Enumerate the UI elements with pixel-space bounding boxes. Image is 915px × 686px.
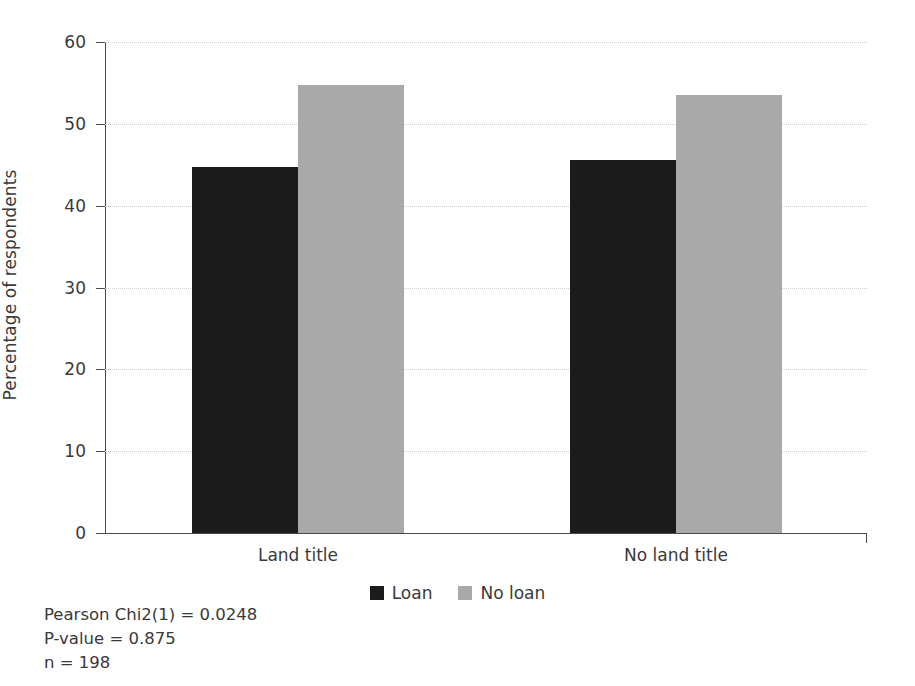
y-axis-tick bbox=[96, 42, 105, 43]
y-axis-tick bbox=[96, 288, 105, 289]
legend: LoanNo loan bbox=[0, 583, 915, 603]
y-axis-tick-label: 60 bbox=[20, 32, 86, 52]
bar-loan-land-title bbox=[192, 167, 298, 533]
x-axis-category-label: Land title bbox=[258, 545, 338, 565]
statistics-annotations: Pearson Chi2(1) = 0.0248P-value = 0.875n… bbox=[44, 603, 257, 675]
legend-swatch-icon bbox=[458, 586, 472, 600]
y-axis-tick bbox=[96, 451, 105, 452]
plot-area bbox=[105, 42, 867, 533]
bar-no-loan-no-land-title bbox=[676, 95, 782, 533]
x-axis-category-label: No land title bbox=[624, 545, 728, 565]
y-axis-tick bbox=[96, 369, 105, 370]
y-axis-tick bbox=[96, 124, 105, 125]
y-axis-tick bbox=[96, 206, 105, 207]
x-axis-line bbox=[105, 533, 867, 534]
x-axis-end-tick bbox=[866, 533, 867, 543]
legend-label: Loan bbox=[392, 583, 433, 603]
annotation-line: Pearson Chi2(1) = 0.0248 bbox=[44, 603, 257, 627]
y-axis-tick-label: 50 bbox=[20, 114, 86, 134]
legend-swatch-icon bbox=[370, 586, 384, 600]
bar-no-loan-land-title bbox=[298, 85, 404, 533]
y-axis-tick-label: 40 bbox=[20, 196, 86, 216]
y-axis-tick-label: 30 bbox=[20, 278, 86, 298]
y-axis-tick-label: 10 bbox=[20, 441, 86, 461]
y-axis-tick-label: 0 bbox=[20, 523, 86, 543]
y-axis-tick bbox=[96, 533, 105, 534]
annotation-line: P-value = 0.875 bbox=[44, 627, 257, 651]
annotation-line: n = 198 bbox=[44, 651, 257, 675]
gridline bbox=[105, 42, 867, 43]
bar-chart-figure: Percentage of respondents 0102030405060 … bbox=[0, 0, 915, 686]
legend-item-no-loan[interactable]: No loan bbox=[458, 583, 545, 603]
legend-label: No loan bbox=[480, 583, 545, 603]
y-axis-title: Percentage of respondents bbox=[0, 125, 20, 445]
y-axis-tick-label: 20 bbox=[20, 359, 86, 379]
legend-item-loan[interactable]: Loan bbox=[370, 583, 433, 603]
bar-loan-no-land-title bbox=[570, 160, 676, 533]
